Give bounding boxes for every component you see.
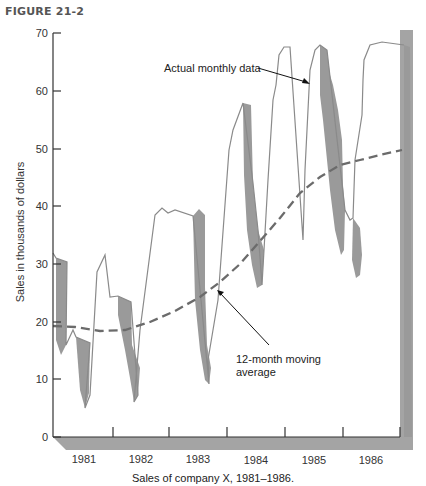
- y-tick-70: 70: [36, 27, 48, 39]
- x-tick-1982: 1982: [129, 453, 153, 465]
- floor-shadow: [53, 437, 413, 450]
- declining-bands: [56, 45, 412, 437]
- x-tick-labels: 1981 1982 1983 1984 1985 1986: [72, 453, 383, 466]
- sales-chart: 0 10 20 30 40 50 60 70 1981 1982 1983 19…: [0, 0, 426, 486]
- y-tick-40: 40: [36, 200, 48, 212]
- axes: [53, 33, 400, 437]
- y-tick-60: 60: [36, 85, 48, 97]
- actual-data-arrow: [258, 68, 310, 84]
- x-tick-1981: 1981: [72, 453, 96, 465]
- y-axis-label: Sales in thousands of dollars: [14, 161, 26, 302]
- x-tick-1983: 1983: [186, 453, 210, 465]
- y-tick-30: 30: [36, 258, 48, 270]
- moving-average-annotation-line2: average: [236, 366, 276, 378]
- moving-average-annotation-line1: 12-month moving: [236, 353, 321, 365]
- actual-data-line: [53, 42, 404, 408]
- moving-average-arrow: [217, 290, 269, 345]
- y-tick-10: 10: [36, 373, 48, 385]
- y-tick-labels: 0 10 20 30 40 50 60 70: [36, 27, 48, 443]
- y-tick-50: 50: [36, 143, 48, 155]
- x-tick-1984: 1984: [244, 454, 268, 466]
- x-tick-1985: 1985: [302, 454, 326, 466]
- y-tick-20: 20: [36, 316, 48, 328]
- figure-caption: Sales of company X, 1981–1986.: [0, 472, 426, 484]
- y-tick-0: 0: [42, 431, 48, 443]
- actual-data-annotation: Actual monthly data: [164, 62, 261, 74]
- x-tick-1986: 1986: [359, 454, 383, 466]
